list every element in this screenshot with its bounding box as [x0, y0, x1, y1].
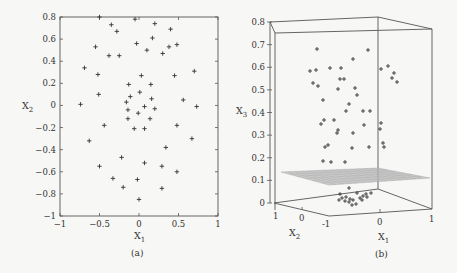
x1-axis-b: -1 0 1 X1: [322, 209, 434, 245]
x-axis-ticks-a: −1−0.500.51: [54, 17, 221, 229]
svg-text:0.4: 0.4: [251, 108, 265, 118]
svg-text:0: 0: [136, 219, 141, 229]
svg-text:0.7: 0.7: [251, 40, 265, 50]
svg-text:-1: -1: [322, 219, 330, 229]
x2-axis-b: 1 0 X2: [273, 207, 304, 241]
svg-text:0: 0: [51, 100, 56, 110]
svg-text:0.2: 0.2: [42, 78, 56, 88]
scatter-panel-a: 0.80.60.40.20−0.2−0.4−0.6−0.8−1 −1−0.500…: [22, 12, 221, 258]
svg-text:0.6: 0.6: [42, 34, 56, 44]
svg-text:−0.4: −0.4: [35, 145, 56, 155]
svg-text:0.3: 0.3: [251, 130, 265, 140]
z-axis-ticks-b: 0.80.70.60.50.40.30.20.10: [251, 17, 272, 208]
plot-frame-a: [60, 17, 218, 216]
svg-text:−0.5: −0.5: [89, 219, 110, 229]
svg-text:−1: −1: [54, 219, 67, 229]
svg-text:1: 1: [273, 211, 278, 221]
z-axis-label-b: X3: [236, 105, 247, 119]
svg-text:0: 0: [260, 198, 265, 208]
threshold-plane: [281, 168, 430, 185]
y-axis-label-a: X2: [22, 100, 33, 114]
caption-a: (a): [131, 248, 143, 258]
svg-text:1: 1: [215, 219, 220, 229]
svg-text:0.5: 0.5: [251, 85, 265, 95]
svg-text:0.8: 0.8: [251, 17, 265, 27]
svg-text:−0.8: −0.8: [35, 189, 56, 199]
svg-text:0.5: 0.5: [172, 219, 186, 229]
svg-text:0: 0: [299, 213, 304, 223]
svg-text:X1: X1: [378, 231, 389, 245]
svg-text:0.4: 0.4: [42, 56, 56, 66]
y-axis-ticks-a: 0.80.60.40.20−0.2−0.4−0.6−0.8−1: [35, 12, 218, 221]
x-axis-label-a: X1: [134, 230, 145, 244]
svg-text:0.1: 0.1: [251, 175, 265, 185]
svg-text:X2: X2: [289, 227, 300, 241]
svg-text:0.8: 0.8: [42, 12, 56, 22]
svg-text:0.2: 0.2: [251, 153, 265, 163]
svg-text:0: 0: [377, 217, 382, 227]
box-3d-b: [270, 17, 432, 216]
svg-text:−0.2: −0.2: [35, 123, 56, 133]
scatter3d-panel-b: 0.80.70.60.50.40.30.20.10 1 0 X2 -1 0 1 …: [236, 17, 434, 259]
caption-b: (b): [375, 249, 388, 259]
scatter-points-a: [78, 15, 199, 202]
svg-text:0.6: 0.6: [251, 62, 265, 72]
svg-text:−0.6: −0.6: [35, 167, 56, 177]
figure: 0.80.60.40.20−0.2−0.4−0.6−0.8−1 −1−0.500…: [0, 0, 457, 273]
svg-text:1: 1: [429, 214, 434, 224]
